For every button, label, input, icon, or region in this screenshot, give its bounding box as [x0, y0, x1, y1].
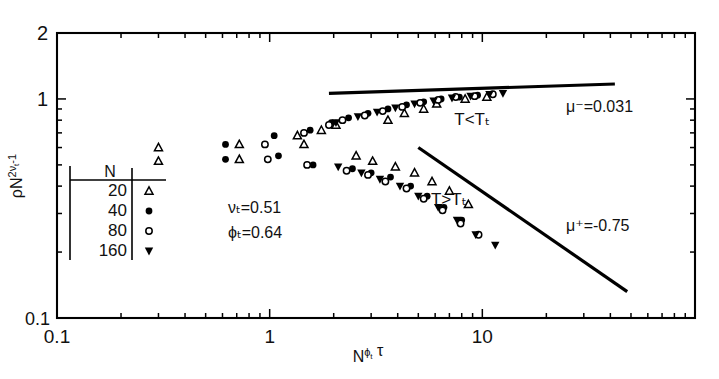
legend-label-N80: 80 [108, 221, 127, 240]
annotation-T-greater-Tt: T>Tₜ [431, 190, 467, 209]
data-point-N80 [403, 185, 409, 191]
parameter-nu-t: νₜ=0.51 [228, 199, 281, 216]
data-point-N80 [304, 162, 310, 168]
data-point-N20 [154, 143, 162, 150]
data-point-N80 [326, 122, 332, 128]
y-tick-label-2: 2 [37, 22, 48, 44]
annotation-T-less-Tt: T<Tₜ [454, 110, 490, 129]
data-point-N80 [362, 112, 368, 118]
data-point-N80 [265, 156, 271, 162]
data-point-N40 [275, 152, 282, 159]
data-point-N80 [365, 172, 371, 178]
data-point-N20 [411, 169, 419, 176]
y-axis-title: ρN2νt-1 [6, 154, 25, 198]
data-point-N160 [491, 242, 499, 250]
x-tick-label-0.1: 0.1 [44, 326, 70, 347]
data-point-N80 [382, 178, 388, 184]
legend-label-N40: 40 [108, 201, 127, 220]
legend-label-N160: 160 [99, 241, 127, 260]
data-point-N80 [262, 141, 268, 147]
data-point-N20 [369, 157, 377, 164]
data-point-N80 [420, 196, 426, 202]
data-point-N160 [391, 105, 399, 113]
data-point-N40 [222, 156, 229, 163]
x-tick-label-10: 10 [472, 326, 493, 347]
data-point-N20 [384, 116, 392, 123]
parameter-phi-t: ϕₜ=0.64 [228, 224, 282, 241]
data-point-N20 [352, 152, 360, 159]
upper-branch-fit [329, 84, 615, 93]
figure-panel: 210.10.1110ρN2νt-1Nϕt τμ⁻=0.031μ⁺=-0.75T… [0, 0, 719, 379]
y-tick-label-1: 1 [37, 88, 48, 110]
data-point-N40 [222, 141, 229, 148]
mu-plus-label: μ⁺=-0.75 [566, 217, 630, 234]
data-point-N40 [271, 132, 278, 139]
plot-frame [57, 33, 695, 318]
mu-minus-label: μ⁻=0.031 [566, 98, 633, 115]
data-point-N80 [399, 104, 405, 110]
data-point-N80 [301, 130, 307, 136]
data-point-N20 [235, 155, 243, 162]
legend-marker-N20 [145, 187, 153, 194]
data-point-N20 [317, 126, 325, 133]
x-axis-title: Nϕt τ [353, 342, 384, 365]
legend-marker-N80 [146, 228, 152, 234]
data-point-N80 [343, 168, 349, 174]
data-point-N20 [235, 140, 243, 147]
data-point-N80 [339, 117, 345, 123]
scatter-plot: 210.10.1110ρN2νt-1Nϕt τμ⁻=0.031μ⁺=-0.75T… [0, 0, 719, 379]
data-point-N160 [499, 90, 507, 98]
data-point-N20 [428, 177, 436, 184]
x-tick-label-1: 1 [264, 326, 275, 347]
legend-header-label: N [104, 163, 116, 180]
data-point-N20 [300, 140, 308, 147]
data-point-N160 [354, 113, 362, 121]
data-point-N20 [154, 157, 162, 164]
legend-label-N20: 20 [108, 181, 127, 200]
data-point-N160 [334, 163, 342, 171]
legend-marker-N160 [145, 248, 153, 256]
legend-marker-N40 [146, 208, 153, 215]
data-point-N20 [391, 163, 399, 170]
